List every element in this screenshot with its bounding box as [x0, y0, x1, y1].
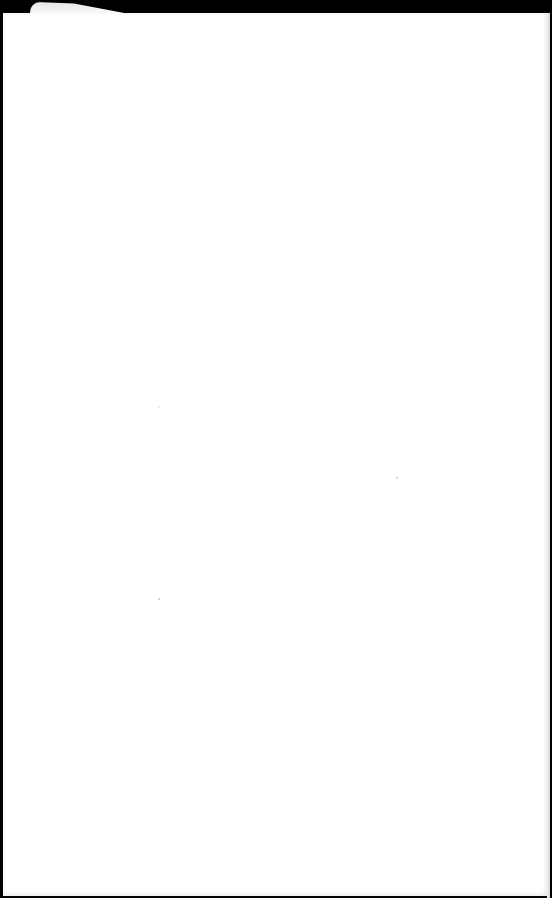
dust-speck — [158, 598, 160, 600]
dust-speck — [158, 406, 160, 408]
paper-curled-corner — [30, 2, 140, 16]
paper-edge-shadow — [547, 13, 550, 898]
blank-paper-sheet — [3, 13, 548, 896]
dust-speck — [396, 477, 398, 479]
